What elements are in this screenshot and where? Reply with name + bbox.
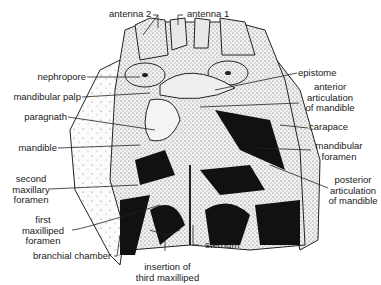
- line-1: anterior: [300, 82, 360, 93]
- label-carapace: carapace: [309, 122, 348, 133]
- anatomy-diagram: antenna 2 antenna 1 nephropore mandibula…: [0, 0, 381, 285]
- line-3: of mandible: [300, 103, 360, 114]
- line-1: second: [8, 174, 54, 185]
- label-mandible: mandible: [18, 143, 57, 154]
- label-first-maxilliped-foramen: first maxilliped foramen: [14, 215, 72, 247]
- label-mandibular-foramen: mandibular foramen: [310, 141, 368, 162]
- line-1: first: [14, 215, 72, 226]
- line-1: mandibular: [310, 141, 368, 152]
- label-antenna-1: antenna 1: [187, 9, 229, 20]
- label-mandibular-palp: mandibular palp: [13, 92, 81, 103]
- line-3: foramen: [14, 236, 72, 247]
- label-paragnath: paragnath: [24, 112, 67, 123]
- label-anterior-articulation: anterior articulation of mandible: [300, 82, 360, 114]
- line-1: posterior: [325, 175, 381, 186]
- line-2: third maxilliped: [135, 273, 200, 284]
- label-posterior-articulation: posterior articulation of mandible: [325, 175, 381, 207]
- label-second-maxillary-foramen: second maxillary foramen: [8, 174, 54, 206]
- label-antenna-2: antenna 2: [109, 9, 151, 20]
- line-1: insertion of: [135, 262, 200, 273]
- line-3: of mandible: [325, 196, 381, 207]
- line-2: foramen: [310, 152, 368, 163]
- label-epistome: epistome: [298, 68, 337, 79]
- label-insertion-third-maxilliped: insertion of third maxilliped: [135, 262, 200, 283]
- label-nephropore: nephropore: [37, 72, 86, 83]
- label-sternum: sternum: [205, 240, 239, 251]
- label-branchial-chamber: branchial chamber: [33, 251, 111, 262]
- line-3: foramen: [8, 195, 54, 206]
